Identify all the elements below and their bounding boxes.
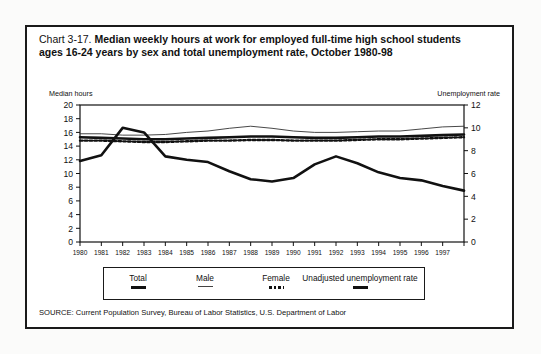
y-tick-label-left: 16 [63,128,73,138]
y-tick-label-left: 10 [63,169,73,179]
y-tick-label-right: 0 [471,237,476,247]
x-tick-label: 1997 [435,249,450,256]
y-tick-label-right: 10 [471,123,481,133]
legend-swatch [198,286,213,287]
x-tick-label: 1990 [286,249,301,256]
legend-label: Female [250,273,302,283]
legend-label: Total [110,273,166,283]
legend-item-unadjusted-unemployment-rate: Unadjusted unemployment rate [300,273,420,289]
x-tick-label: 1985 [179,249,194,256]
source-note: SOURCE: Current Population Survey, Burea… [39,308,346,317]
x-tick-label: 1980 [73,249,88,256]
legend-swatch [269,286,284,289]
x-tick-label: 1987 [222,249,237,256]
x-tick-label: 1983 [137,249,152,256]
x-tick-label: 1993 [350,249,365,256]
x-tick-label: 1992 [329,249,344,256]
legend-swatch [353,286,368,289]
y-tick-label-right: 6 [471,169,476,179]
legend-item-male: Male [180,273,230,287]
x-tick-label: 1989 [265,249,280,256]
x-tick-label: 1988 [243,249,258,256]
x-tick-label: 1996 [414,249,429,256]
legend-swatch [131,286,146,289]
legend-label: Male [180,273,230,283]
chart-frame: Chart 3-17. Median weekly hours at work … [25,25,514,329]
y-tick-label-left: 6 [68,196,73,206]
x-tick-label: 1981 [94,249,109,256]
x-tick-label: 1995 [393,249,408,256]
y-tick-label-left: 0 [68,237,73,247]
x-tick-label: 1991 [307,249,322,256]
chart-legend: TotalMaleFemaleUnadjusted unemployment r… [103,267,425,300]
x-tick-label: 1982 [115,249,130,256]
y-tick-label-right: 8 [471,146,476,156]
legend-item-female: Female [250,273,302,289]
y-tick-label-left: 18 [63,114,73,124]
y-tick-label-right: 12 [471,100,481,110]
plot-border [80,105,464,242]
legend-item-total: Total [110,273,166,289]
y-tick-label-left: 12 [63,155,73,165]
y-tick-label-left: 14 [63,141,73,151]
x-tick-label: 1994 [371,249,386,256]
y-tick-label-left: 4 [68,210,73,220]
y-tick-label-right: 2 [471,214,476,224]
legend-label: Unadjusted unemployment rate [300,273,420,283]
y-tick-label-left: 8 [68,182,73,192]
y-tick-label-left: 20 [63,100,73,110]
y-tick-label-left: 2 [68,224,73,234]
x-tick-label: 1984 [158,249,173,256]
x-tick-label: 1986 [201,249,216,256]
y-tick-label-right: 4 [471,192,476,202]
